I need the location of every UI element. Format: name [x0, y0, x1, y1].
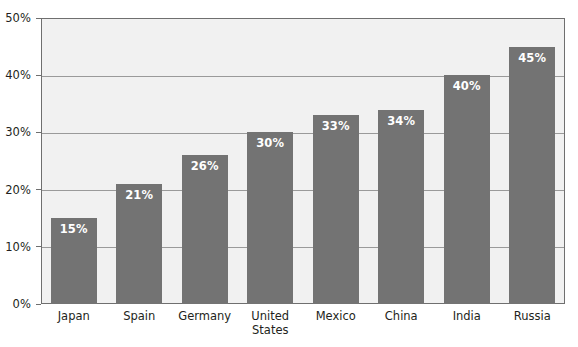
y-tick-label: 40% — [5, 68, 31, 82]
bar-value-label: 30% — [247, 136, 293, 150]
bar[interactable]: 15% — [51, 218, 97, 304]
bar-group: 34% — [369, 18, 435, 304]
x-axis: JapanSpainGermanyUnited StatesMexicoChin… — [41, 306, 565, 347]
x-tick-label: Mexico — [303, 309, 369, 323]
bar-value-label: 34% — [378, 114, 424, 128]
bar-value-label: 26% — [182, 159, 228, 173]
y-tick-label: 50% — [5, 11, 31, 25]
bar-group: 40% — [434, 18, 500, 304]
bar[interactable]: 34% — [378, 110, 424, 304]
y-tick-label: 0% — [13, 297, 31, 311]
bar-value-label: 21% — [116, 188, 162, 202]
y-axis: 0%10%20%30%40%50% — [0, 0, 41, 347]
x-tick-label: China — [369, 309, 435, 323]
y-tick-label: 10% — [5, 240, 31, 254]
bar-group: 26% — [172, 18, 238, 304]
x-tick-label: India — [434, 309, 500, 323]
bar-group: 30% — [238, 18, 304, 304]
y-tick-label: 30% — [5, 125, 31, 139]
bar[interactable]: 26% — [182, 155, 228, 304]
bar-value-label: 33% — [313, 119, 359, 133]
bar-group: 33% — [303, 18, 369, 304]
bar-group: 15% — [41, 18, 107, 304]
bar[interactable]: 33% — [313, 115, 359, 304]
bar-chart-figure: 0%10%20%30%40%50% 15%21%26%30%33%34%40%4… — [0, 0, 578, 347]
x-tick-label: Spain — [107, 309, 173, 323]
x-tick-label: Germany — [172, 309, 238, 323]
bar-group: 45% — [500, 18, 566, 304]
bar[interactable]: 21% — [116, 184, 162, 304]
bar[interactable]: 45% — [509, 47, 555, 304]
y-tick-label: 20% — [5, 183, 31, 197]
x-tick-label: United States — [238, 309, 304, 337]
bar-value-label: 40% — [444, 79, 490, 93]
bar[interactable]: 40% — [444, 75, 490, 304]
x-tick-label: Japan — [41, 309, 107, 323]
bar-value-label: 45% — [509, 51, 555, 65]
bar[interactable]: 30% — [247, 132, 293, 304]
x-tick-label: Russia — [500, 309, 566, 323]
bar-group: 21% — [107, 18, 173, 304]
bars-layer: 15%21%26%30%33%34%40%45% — [41, 18, 565, 304]
bar-value-label: 15% — [51, 222, 97, 236]
